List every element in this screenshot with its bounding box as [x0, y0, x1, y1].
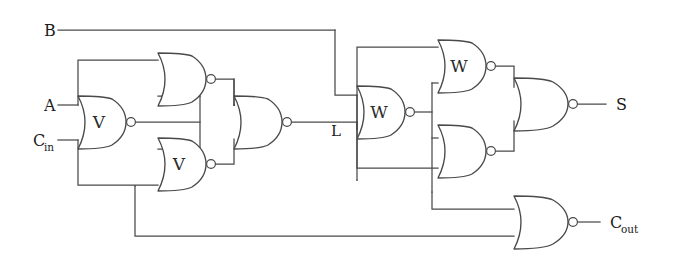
gate-w2[interactable]: W: [438, 40, 495, 93]
gate-carry-bubble: [569, 218, 578, 227]
label-input-cin: C in: [33, 131, 54, 153]
node-l-text: L: [331, 122, 341, 140]
gate-w2-bubble: [487, 62, 496, 71]
wire-w2-output: [492, 66, 514, 87]
gate-v2-bubble: [207, 160, 216, 169]
circuit-canvas: V V W W: [0, 0, 686, 260]
gate-sum[interactable]: [514, 78, 577, 131]
wire-carry-bottom-feed: [135, 186, 514, 236]
gate-nor3[interactable]: [438, 125, 495, 178]
wire-nor1-output: [212, 79, 234, 105]
gate-sum-bubble: [569, 100, 578, 109]
gate-nor3-bubble: [487, 147, 496, 156]
label-input-b: B: [44, 21, 56, 40]
gate-w1[interactable]: W: [357, 86, 414, 139]
output-cout-subscript: out: [621, 223, 639, 235]
label-node-l: L: [331, 122, 341, 140]
gate-w1-bubble: [406, 108, 415, 117]
gate-sum-body: [514, 78, 568, 131]
wire-nor3-output: [492, 121, 514, 151]
output-s-text: S: [616, 95, 627, 114]
wire-carry-top-feed: [432, 192, 514, 209]
logic-diagram: V V W W: [0, 0, 686, 260]
gate-w2-letter: W: [450, 56, 468, 76]
gate-v1-letter: V: [92, 112, 106, 132]
gate-v1[interactable]: V: [78, 96, 135, 149]
wire-v2-output: [212, 139, 234, 164]
gate-v2-letter: V: [172, 154, 186, 174]
gate-carry-body: [514, 196, 568, 249]
gate-nor2-bubble: [283, 118, 292, 127]
gate-nor3-body: [438, 125, 486, 178]
wire-b-drop: [335, 30, 357, 95]
gate-nor1-body: [158, 53, 206, 106]
gate-nor2-body: [234, 96, 282, 149]
input-cin-subscript: in: [44, 141, 54, 153]
gate-v2[interactable]: V: [158, 138, 215, 191]
label-input-a: A: [43, 96, 56, 115]
label-output-cout: C out: [610, 213, 639, 235]
label-output-s: S: [616, 95, 627, 114]
gate-nor2[interactable]: [234, 96, 291, 149]
gate-nor1-bubble: [207, 75, 216, 84]
gate-nor1[interactable]: [158, 53, 215, 106]
gate-carry[interactable]: [514, 196, 577, 249]
input-a-text: A: [43, 96, 56, 115]
gate-w1-letter: W: [370, 102, 388, 122]
gate-v1-bubble: [127, 118, 136, 127]
input-b-text: B: [44, 21, 56, 40]
